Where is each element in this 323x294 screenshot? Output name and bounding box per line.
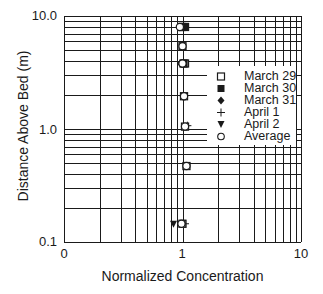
- x-axis-title: Normalized Concentration: [64, 268, 301, 284]
- open-circle-marker: [176, 23, 183, 30]
- y-axis-title: Distance Above Bed (m): [15, 41, 31, 211]
- legend-item-average: Average: [207, 130, 296, 143]
- open-circle-marker: [179, 60, 186, 67]
- open-circle-icon: [215, 130, 227, 143]
- open-circle-marker: [183, 162, 190, 169]
- legend: March 29 March 30 March 31 April 1 April…: [207, 66, 296, 145]
- open-circle-marker: [178, 220, 185, 227]
- data-points: [170, 23, 191, 227]
- legend-label: Average: [244, 129, 290, 143]
- x-tick-label: 10: [286, 246, 316, 261]
- x-tick-label: 1: [167, 246, 197, 261]
- x-tick-label: 0: [49, 246, 79, 261]
- open-circle-marker: [180, 93, 187, 100]
- open-circle-marker: [179, 43, 186, 50]
- y-tick-label: 10.0: [17, 8, 57, 23]
- open-circle-marker: [181, 123, 188, 130]
